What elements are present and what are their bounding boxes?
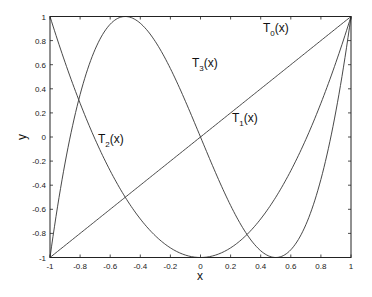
y-tick-labels: -1-0.8-0.6-0.4-0.200.20.40.60.81: [32, 13, 46, 263]
x-tick-label: 1: [349, 262, 354, 271]
y-axis-label: y: [15, 134, 29, 140]
x-tick-label: 0.4: [255, 262, 267, 271]
y-tick-label: 0.8: [35, 37, 47, 46]
x-axis-label: x: [197, 269, 203, 283]
x-tick-label: 0.2: [225, 262, 237, 271]
x-tick-label: 0.8: [315, 262, 327, 271]
x-tick-label: -0.4: [133, 262, 147, 271]
x-tick-label: -0.6: [103, 262, 117, 271]
y-tick-label: 0: [42, 133, 47, 142]
y-tick-label: -0.2: [32, 157, 46, 166]
y-tick-label: 0.6: [35, 61, 47, 70]
y-tick-label: 0.2: [35, 109, 47, 118]
x-tick-label: -0.2: [164, 262, 178, 271]
y-tick-label: 0.4: [35, 85, 47, 94]
y-tick-label: -0.4: [32, 181, 46, 190]
y-tick-label: 1: [42, 13, 47, 22]
y-tick-label: -0.6: [32, 205, 46, 214]
y-tick-label: -1: [39, 254, 47, 263]
x-tick-label: -1: [46, 262, 54, 271]
plot-area: [50, 17, 351, 258]
chebyshev-chart: -1-0.8-0.6-0.4-0.200.20.40.60.81 -1-0.8-…: [0, 0, 372, 297]
x-tick-label: 0.6: [285, 262, 297, 271]
y-tick-label: -0.8: [32, 229, 46, 238]
x-tick-label: -0.8: [73, 262, 87, 271]
